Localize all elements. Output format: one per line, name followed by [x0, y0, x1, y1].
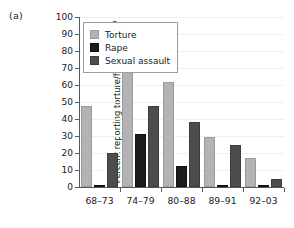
bar-rape[interactable] [176, 166, 188, 187]
y-axis-tick-label: 100 [56, 12, 73, 22]
x-axis-tick [284, 188, 285, 192]
bar-group [243, 17, 284, 187]
x-axis-tick [161, 188, 162, 192]
y-axis-tick [75, 187, 79, 188]
y-axis-tick-label: 20 [62, 148, 73, 158]
x-axis-label: 74–79 [127, 195, 155, 206]
x-axis-label: 89–91 [209, 195, 237, 206]
y-axis-tick-label: 80 [62, 46, 73, 56]
legend-item-torture[interactable]: Torture [90, 28, 170, 41]
y-axis-tick-label: 30 [62, 131, 73, 141]
bar-torture[interactable] [81, 106, 93, 187]
x-axis-label: 80–88 [168, 195, 196, 206]
legend-item-label: Rape [105, 43, 128, 53]
bar-sexual-assault[interactable] [271, 179, 283, 188]
bar-rape[interactable] [217, 185, 229, 187]
x-axis-tick [202, 188, 203, 192]
y-axis-tick-label: 40 [62, 114, 73, 124]
y-axis-tick-label: 10 [62, 165, 73, 175]
bar-rape[interactable] [135, 134, 147, 187]
x-axis-label: 92–03 [250, 195, 278, 206]
bar-rape[interactable] [258, 185, 270, 187]
legend-item-label: Sexual assault [105, 56, 170, 66]
bar-sexual-assault[interactable] [230, 145, 242, 187]
legend-item-sexual-assault[interactable]: Sexual assault [90, 54, 170, 67]
bar-torture[interactable] [245, 158, 257, 187]
x-axis-line [79, 187, 284, 188]
torture-swatch [90, 30, 99, 39]
y-axis-tick-label: 50 [62, 97, 73, 107]
figure-panel-a: (a) Percent reporting torture/forcible r… [0, 0, 294, 228]
x-axis-tick [120, 188, 121, 192]
y-axis-title: Percent reporting torture/forcible rape/… [18, 14, 52, 190]
x-axis-label: 68–73 [86, 195, 114, 206]
bar-torture[interactable] [204, 137, 216, 187]
sexual-assault-swatch [90, 56, 99, 65]
bar-sexual-assault[interactable] [189, 122, 201, 187]
x-axis-tick [243, 188, 244, 192]
y-axis-tick-label: 60 [62, 80, 73, 90]
bar-sexual-assault[interactable] [107, 153, 119, 187]
y-axis-tick-label: 70 [62, 63, 73, 73]
bar-sexual-assault[interactable] [148, 106, 160, 187]
legend-item-rape[interactable]: Rape [90, 41, 170, 54]
bar-torture[interactable] [163, 82, 175, 187]
y-axis-tick-label: 90 [62, 29, 73, 39]
bar-torture[interactable] [122, 68, 134, 187]
rape-swatch [90, 43, 99, 52]
bar-rape[interactable] [94, 185, 106, 187]
legend-item-label: Torture [105, 30, 136, 40]
bar-group [202, 17, 243, 187]
legend: TortureRapeSexual assault [83, 22, 178, 73]
y-axis-tick-label: 0 [67, 182, 73, 192]
